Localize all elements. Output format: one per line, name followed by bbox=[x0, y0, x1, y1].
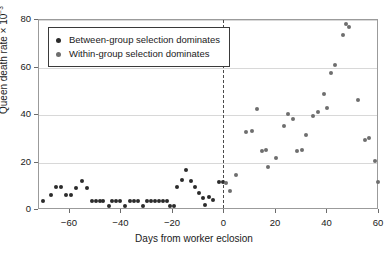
y-tick-label: 60 bbox=[20, 62, 31, 72]
data-point bbox=[224, 181, 228, 185]
y-axis-title-exponent: −3 bbox=[0, 6, 4, 13]
data-point bbox=[59, 185, 63, 189]
data-point bbox=[333, 63, 337, 67]
data-point bbox=[41, 199, 45, 203]
data-point bbox=[341, 33, 345, 37]
x-tick-label: −40 bbox=[112, 218, 128, 228]
y-tick-mark bbox=[34, 209, 38, 210]
x-tick-mark bbox=[326, 209, 327, 213]
x-tick-mark bbox=[69, 209, 70, 213]
x-tick-mark bbox=[378, 209, 379, 213]
gray-circle-marker-icon bbox=[56, 52, 61, 57]
data-point bbox=[234, 173, 238, 177]
gridline bbox=[39, 68, 377, 69]
gridline bbox=[39, 115, 377, 116]
x-tick-mark bbox=[120, 209, 121, 213]
gridline bbox=[39, 163, 377, 164]
scatter-plot-figure: Queen death rate × 10−3 020406080 −60−40… bbox=[0, 0, 388, 253]
x-tick-label: 40 bbox=[321, 218, 332, 228]
legend-item-label: Between-group selection dominates bbox=[69, 35, 220, 45]
data-point bbox=[367, 136, 371, 140]
data-point bbox=[184, 168, 188, 172]
x-tick-label: −60 bbox=[61, 218, 77, 228]
data-point bbox=[54, 185, 58, 189]
data-point bbox=[201, 196, 205, 200]
data-point bbox=[325, 106, 329, 110]
data-point bbox=[49, 193, 53, 197]
x-tick-label: −20 bbox=[164, 218, 180, 228]
data-point bbox=[316, 110, 320, 114]
legend-item-within-group: Within-group selection dominates bbox=[56, 47, 220, 61]
data-point bbox=[255, 107, 259, 111]
x-tick-label: 60 bbox=[373, 218, 384, 228]
data-point bbox=[69, 193, 73, 197]
data-point bbox=[356, 98, 360, 102]
data-point bbox=[274, 156, 278, 160]
data-point bbox=[376, 180, 380, 184]
x-tick-mark bbox=[275, 209, 276, 213]
data-point bbox=[250, 129, 254, 133]
chart-legend: Between-group selection dominates Within… bbox=[48, 27, 230, 67]
data-point bbox=[295, 149, 299, 153]
data-point bbox=[304, 133, 308, 137]
data-point bbox=[329, 71, 333, 75]
x-axis-title: Days from worker eclosion bbox=[0, 233, 388, 244]
data-point bbox=[118, 199, 122, 203]
legend-item-between-group: Between-group selection dominates bbox=[56, 33, 220, 47]
data-point bbox=[189, 179, 193, 183]
data-point bbox=[175, 185, 179, 189]
data-point bbox=[228, 189, 232, 193]
data-point bbox=[136, 199, 140, 203]
data-point bbox=[80, 179, 84, 183]
y-tick-label: 80 bbox=[20, 14, 31, 24]
data-point bbox=[266, 165, 270, 169]
data-point bbox=[165, 199, 169, 203]
data-point bbox=[193, 185, 197, 189]
data-point bbox=[264, 148, 268, 152]
y-axis-title: Queen death rate × 10−3 bbox=[0, 6, 9, 114]
gridline bbox=[39, 20, 377, 21]
dark-circle-marker-icon bbox=[56, 38, 61, 43]
data-point bbox=[203, 203, 207, 207]
y-tick-label: 20 bbox=[20, 157, 31, 167]
data-point bbox=[123, 204, 127, 208]
data-point bbox=[347, 25, 351, 29]
data-point bbox=[291, 117, 295, 121]
y-axis-title-text: Queen death rate × 10 bbox=[0, 14, 9, 114]
data-point bbox=[172, 204, 176, 208]
data-point bbox=[282, 124, 286, 128]
data-point bbox=[107, 204, 111, 208]
data-point bbox=[211, 198, 215, 202]
data-point bbox=[85, 186, 89, 190]
data-point bbox=[286, 112, 290, 116]
legend-item-label: Within-group selection dominates bbox=[69, 49, 209, 59]
x-tick-mark bbox=[172, 209, 173, 213]
data-point bbox=[197, 191, 201, 195]
x-tick-label: 0 bbox=[221, 218, 226, 228]
data-point bbox=[322, 92, 326, 96]
x-tick-label: 20 bbox=[270, 218, 281, 228]
data-point bbox=[373, 159, 377, 163]
data-point bbox=[141, 204, 145, 208]
data-point bbox=[300, 148, 304, 152]
x-tick-mark bbox=[223, 209, 224, 213]
data-point bbox=[74, 186, 78, 190]
data-point bbox=[311, 114, 315, 118]
data-point bbox=[64, 193, 68, 197]
data-point bbox=[101, 199, 105, 203]
data-point bbox=[180, 178, 184, 182]
data-point bbox=[244, 130, 248, 134]
y-tick-label: 0 bbox=[26, 204, 31, 214]
y-tick-label: 40 bbox=[20, 109, 31, 119]
